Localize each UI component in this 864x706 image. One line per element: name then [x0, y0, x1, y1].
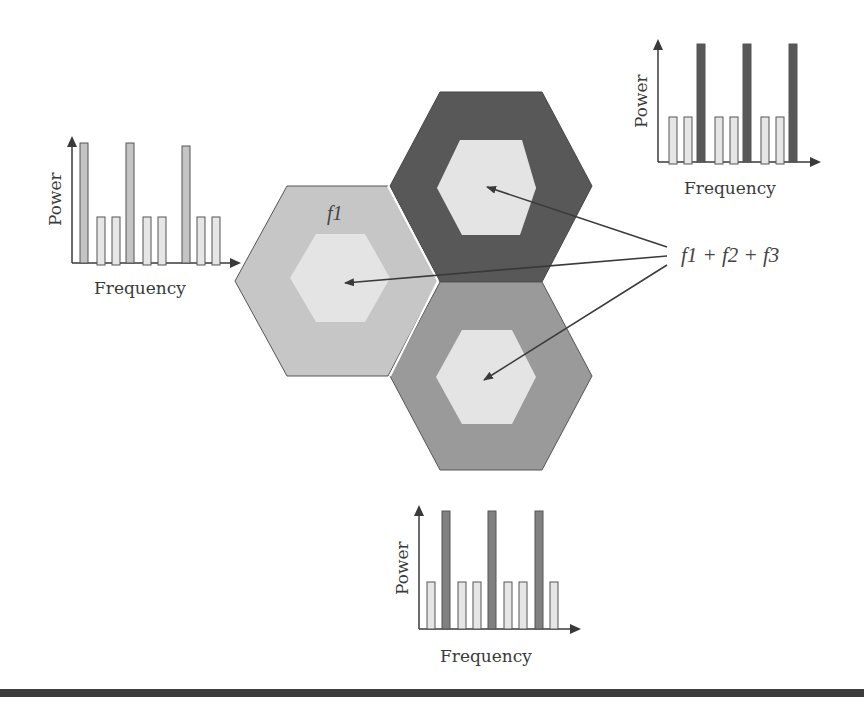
chart-left: [67, 136, 241, 268]
diagram-canvas: [0, 0, 864, 706]
left-chart-xlabel: Frequency: [94, 278, 186, 298]
reuse-label: f1 + f2 + f3: [681, 243, 779, 268]
y-axis-arrow-icon: [67, 136, 77, 147]
bottom-chart-ylabel: Power: [392, 541, 412, 595]
top-chart-xlabel: Frequency: [684, 178, 776, 198]
top-chart-ylabel: Power: [631, 74, 651, 128]
cell-f1-label: f1: [327, 202, 343, 225]
chart-bottom: [414, 505, 581, 634]
left-chart-ylabel: Power: [45, 172, 65, 226]
x-axis-arrow-icon: [230, 258, 241, 268]
bottom-rule-divider: [0, 689, 864, 697]
chart-top-right: [653, 39, 821, 167]
bottom-chart-xlabel: Frequency: [440, 646, 532, 666]
soft-frequency-reuse-diagram: f1 f1 + f2 + f3 Power Frequency Power Fr…: [0, 0, 864, 706]
